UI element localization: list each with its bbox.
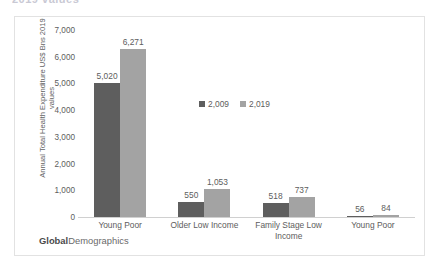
bar-column[interactable]: 6,271 <box>120 30 146 217</box>
bar-2[interactable] <box>289 197 315 217</box>
bar-group: 5501,053 <box>162 30 246 217</box>
top-clipped-text: 2019 values <box>12 0 79 5</box>
bar-value-label: 737 <box>295 185 309 195</box>
bar-2[interactable] <box>120 49 146 217</box>
bar-value-label: 6,271 <box>123 37 144 47</box>
bar-group: 5684 <box>331 30 415 217</box>
bar-column[interactable]: 56 <box>347 30 373 217</box>
bar-1[interactable] <box>263 203 289 217</box>
x-axis-line <box>78 217 415 218</box>
legend-label: 2,009 <box>208 99 229 109</box>
y-axis-tick-4000: 4,000 <box>45 106 75 115</box>
y-axis-tick-1000: 1,000 <box>45 186 75 195</box>
chart-legend: 2,0092,019 <box>199 99 270 109</box>
y-axis-tick-0: 0 <box>45 213 75 222</box>
y-axis-tick-2000: 2,000 <box>45 159 75 168</box>
y-axis-tick-labels: 01,0002,0003,0004,0005,0006,0007,000 <box>45 30 75 217</box>
bar-value-label: 5,020 <box>97 71 118 81</box>
bar-group-bars: 5501,053 <box>162 30 246 217</box>
bar-1[interactable] <box>94 83 120 217</box>
legend-swatch-icon <box>240 101 246 107</box>
bar-column[interactable]: 5,020 <box>94 30 120 217</box>
bar-group-bars: 518737 <box>247 30 331 217</box>
bar-column[interactable]: 550 <box>178 30 204 217</box>
brand-name-rest: Demographics <box>68 235 128 246</box>
brand-name-bold: Global <box>39 235 68 246</box>
bar-group: 518737 <box>247 30 331 217</box>
bar-value-label: 1,053 <box>207 177 228 187</box>
brand-watermark: GlobalDemographics <box>39 235 129 246</box>
bar-group-bars: 5684 <box>331 30 415 217</box>
y-axis-tick-6000: 6,000 <box>45 52 75 61</box>
legend-label: 2,019 <box>249 99 270 109</box>
bar-column[interactable]: 84 <box>373 30 399 217</box>
x-axis-category-label: Older Low Income <box>162 220 246 231</box>
bar-value-label: 518 <box>269 191 283 201</box>
plot-area: 5,0206,2715501,0535187375684 <box>78 30 415 217</box>
legend-item-1[interactable]: 2,009 <box>199 99 229 109</box>
bar-column[interactable]: 518 <box>263 30 289 217</box>
bar-value-label: 56 <box>355 204 364 214</box>
bar-column[interactable]: 1,053 <box>204 30 230 217</box>
bar-2[interactable] <box>204 189 230 217</box>
x-axis-category-label: Family Stage Low Income <box>247 220 331 241</box>
bar-1[interactable] <box>178 202 204 217</box>
bar-group-bars: 5,0206,271 <box>78 30 162 217</box>
x-axis-category-label: Young Poor <box>331 220 415 231</box>
top-clipped-text-strip: 2019 values <box>12 0 132 7</box>
y-axis-tick-3000: 3,000 <box>45 132 75 141</box>
x-axis-category-label: Young Poor <box>78 220 162 231</box>
y-axis-tick-5000: 5,000 <box>45 79 75 88</box>
legend-swatch-icon <box>199 101 205 107</box>
y-axis-tick-7000: 7,000 <box>45 26 75 35</box>
legend-item-2[interactable]: 2,019 <box>240 99 270 109</box>
bar-group: 5,0206,271 <box>78 30 162 217</box>
chart-container: Annual Total Health Expenditure US$ Bns … <box>14 16 425 256</box>
bar-value-label: 84 <box>381 203 390 213</box>
bar-value-label: 550 <box>184 190 198 200</box>
bar-column[interactable]: 737 <box>289 30 315 217</box>
